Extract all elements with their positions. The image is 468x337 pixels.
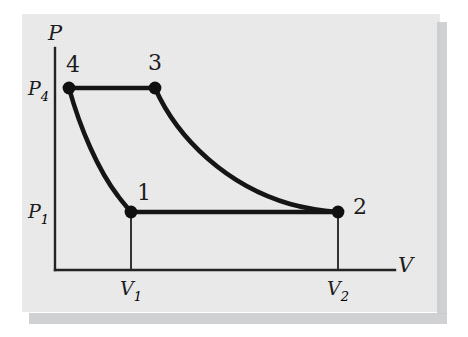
tick-label-p1-base: P (27, 200, 42, 222)
process-curves-group (69, 88, 338, 212)
axes-group (55, 48, 395, 270)
axis-names-group: P V (47, 21, 415, 277)
tick-label-p4-base: P (27, 77, 42, 99)
tick-label-v2: V2 (327, 277, 349, 304)
state-point-2 (332, 206, 345, 219)
pv-diagram: 4 3 1 2 P V P4 P1 V1 V2 (0, 0, 468, 337)
tick-label-p1: P1 (27, 200, 49, 227)
tick-label-p4: P4 (27, 77, 49, 104)
tick-label-p1-sub: 1 (41, 212, 49, 227)
state-label-2: 2 (353, 194, 367, 219)
x-axis-label: V (398, 253, 415, 277)
process-4-to-1-adiabat (69, 88, 131, 212)
state-point-3 (149, 82, 162, 95)
droplines-group (131, 212, 338, 270)
tick-label-v1: V1 (120, 277, 142, 304)
state-point-4 (63, 82, 76, 95)
state-label-3: 3 (148, 50, 162, 75)
state-point-1 (125, 206, 138, 219)
tick-label-v2-sub: 2 (340, 289, 349, 304)
process-3-to-2-adiabat (155, 88, 338, 212)
state-label-4: 4 (66, 52, 80, 77)
figure-screenshot: 4 3 1 2 P V P4 P1 V1 V2 (0, 0, 468, 337)
state-points-group (63, 82, 345, 219)
y-axis-label: P (47, 21, 63, 45)
tick-label-v1-sub: 1 (134, 289, 142, 304)
state-labels-group: 4 3 1 2 (66, 50, 367, 219)
state-label-1: 1 (137, 180, 151, 205)
tick-label-p4-sub: 4 (40, 89, 49, 104)
